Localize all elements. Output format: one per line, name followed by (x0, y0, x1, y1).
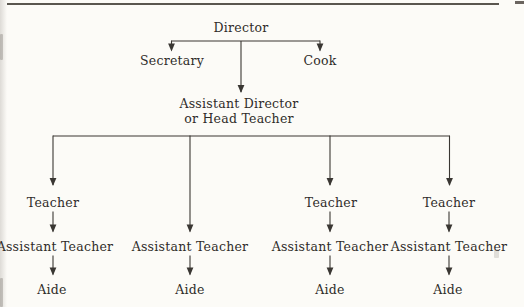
node-cook: Cook (303, 54, 336, 67)
node-assistant-director: Assistant Director or Head Teacher (179, 97, 298, 126)
node-col1-assistant-teacher: Assistant Teacher (0, 240, 113, 253)
node-col4-assistant-teacher: Assistant Teacher (391, 240, 508, 253)
connector-lines (0, 0, 524, 307)
node-col4-teacher: Teacher (423, 196, 475, 209)
node-col3-aide: Aide (315, 283, 344, 296)
node-col3-teacher: Teacher (305, 196, 357, 209)
node-col3-assistant-teacher: Assistant Teacher (272, 240, 389, 253)
node-assistant-director-line2: or Head Teacher (179, 112, 298, 127)
node-col4-aide: Aide (433, 283, 462, 296)
node-secretary: Secretary (140, 54, 204, 67)
node-col2-aide: Aide (175, 283, 204, 296)
node-col1-aide: Aide (37, 283, 66, 296)
node-col1-teacher: Teacher (27, 196, 79, 209)
node-col2-assistant-teacher: Assistant Teacher (132, 240, 249, 253)
org-chart-page: Director Secretary Cook Assistant Direct… (0, 0, 524, 307)
node-director: Director (214, 21, 269, 34)
node-assistant-director-line1: Assistant Director (179, 97, 298, 112)
